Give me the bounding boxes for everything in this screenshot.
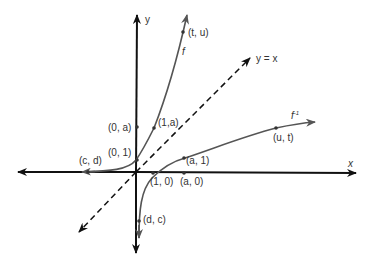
label-d-c: (d, c) bbox=[143, 214, 166, 225]
point-0-a bbox=[135, 125, 139, 129]
label-a-1: (a, 1) bbox=[186, 155, 209, 166]
curve-f-label: f bbox=[182, 46, 186, 57]
curve-f-inverse-label: f-1 bbox=[291, 110, 299, 121]
label-a-0: (a, 0) bbox=[180, 176, 203, 187]
curve-f bbox=[82, 15, 187, 172]
point-u-t bbox=[274, 126, 278, 130]
label-t-u: (t, u) bbox=[188, 27, 209, 38]
x-axis bbox=[136, 172, 356, 173]
label-0-a: (0, a) bbox=[108, 122, 131, 133]
identity-line-negative bbox=[79, 172, 136, 232]
function-inverse-diagram: y x y = x f f-1 (t, u) (0, a) (1,a) (0, … bbox=[0, 0, 377, 266]
label-1-0: (1, 0) bbox=[150, 176, 173, 187]
y-axis-label: y bbox=[145, 14, 150, 25]
point-1-0 bbox=[151, 171, 155, 175]
point-0-1 bbox=[135, 158, 139, 162]
point-a-0 bbox=[182, 171, 186, 175]
curve-f-inverse-sup: -1 bbox=[294, 110, 299, 116]
point-d-c bbox=[137, 219, 141, 223]
label-c-d: (c, d) bbox=[79, 155, 102, 166]
point-t-u bbox=[181, 30, 185, 34]
label-u-t: (u, t) bbox=[273, 132, 294, 143]
point-c-d bbox=[86, 170, 90, 174]
point-1-a bbox=[152, 126, 156, 130]
identity-line-label: y = x bbox=[256, 53, 277, 64]
x-axis-label: x bbox=[347, 158, 354, 169]
y-axis bbox=[136, 15, 137, 172]
label-0-1: (0, 1) bbox=[108, 147, 131, 158]
label-1-a: (1,a) bbox=[158, 117, 179, 128]
